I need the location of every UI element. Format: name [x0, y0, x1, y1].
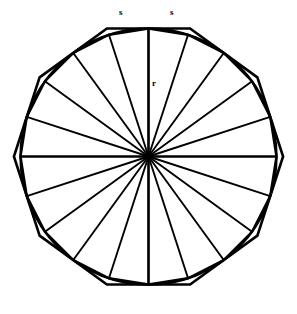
radius [73, 157, 148, 261]
radius [149, 35, 189, 157]
radius [149, 157, 271, 197]
radius-label: r [152, 79, 156, 88]
radius [73, 53, 148, 157]
side-label-left: s [119, 8, 123, 17]
geometry-canvas [0, 0, 297, 314]
geometry-figure: s s r [0, 0, 297, 314]
radius [45, 81, 149, 156]
radius [27, 117, 149, 157]
radius [149, 157, 189, 279]
radius [149, 81, 253, 156]
radius [149, 117, 271, 157]
radius [109, 35, 149, 157]
radius [149, 53, 224, 157]
radius [149, 157, 224, 261]
radius [27, 157, 149, 197]
side-label-right: s [170, 8, 174, 17]
radius [109, 157, 149, 279]
radius [45, 157, 149, 232]
radius [149, 157, 253, 232]
